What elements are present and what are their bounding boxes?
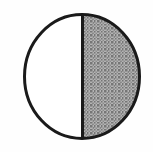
half-shaded-circle-figure <box>0 0 153 152</box>
figure-canvas: A circle divided by a vertical diameter … <box>0 0 153 152</box>
